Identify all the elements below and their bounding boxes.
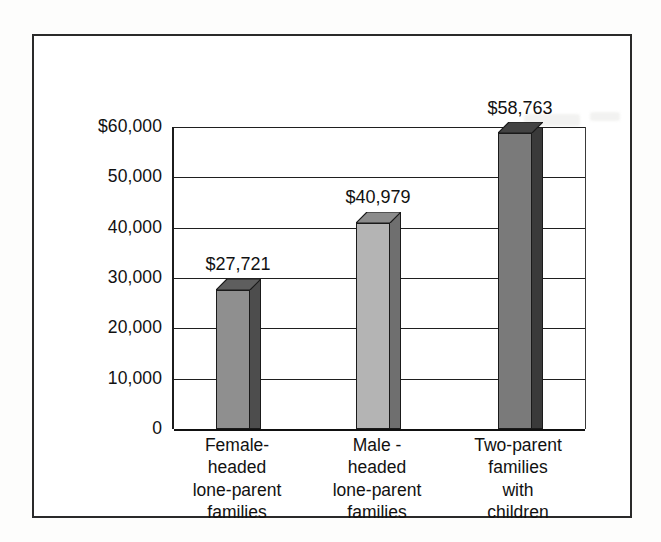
x-label-two-parent: Two-parent families with children [444, 434, 592, 524]
bar-front-face [356, 223, 390, 429]
bar-top-face [356, 212, 401, 223]
bar-female-headed[interactable] [216, 127, 261, 429]
x-label-line: Two-parent [444, 434, 592, 456]
y-tick-label: $60,000 [48, 118, 168, 136]
bar-top-parallelogram-icon [216, 279, 261, 290]
y-tick-label: 20,000 [48, 320, 168, 338]
x-label-line: families [444, 456, 592, 478]
figure-frame: $60,000 50,000 40,000 30,000 20,000 10,0… [32, 34, 632, 518]
plot-area: $27,721 $40,979 [172, 127, 586, 429]
bar-side-face [390, 212, 401, 429]
x-axis-category-labels: Female- headed lone-parent families Male… [172, 434, 586, 542]
bar-front-face [216, 290, 250, 430]
scanned-page: $60,000 50,000 40,000 30,000 20,000 10,0… [0, 0, 661, 542]
x-label-line: with [444, 479, 592, 501]
y-tick-label: 10,000 [48, 370, 168, 388]
bar-male-headed[interactable] [356, 127, 401, 429]
x-label-line: families [303, 501, 451, 523]
y-tick-label: 50,000 [48, 169, 168, 187]
y-axis-tick-labels: $60,000 50,000 40,000 30,000 20,000 10,0… [42, 127, 168, 429]
bar-two-parent[interactable] [498, 127, 543, 429]
scan-smudge [590, 112, 620, 121]
x-label-line: headed [303, 456, 451, 478]
bar-side-face [532, 127, 543, 429]
x-label-female-headed: Female- headed lone-parent families [163, 434, 311, 524]
x-label-line: families [163, 501, 311, 523]
y-tick-label: 30,000 [48, 269, 168, 287]
bar-front-face [498, 133, 532, 429]
bar-top-face [498, 122, 543, 133]
bar-side-face [250, 279, 261, 430]
x-label-male-headed: Male - headed lone-parent families [303, 434, 451, 524]
bar-top-face [216, 279, 261, 290]
y-tick-label: 0 [48, 420, 168, 438]
bar-value-label-male-headed: $40,979 [318, 188, 438, 206]
x-label-line: lone-parent [163, 479, 311, 501]
y-tick-label: 40,000 [48, 219, 168, 237]
bar-value-label-two-parent: $58,763 [460, 99, 580, 117]
x-axis-baseline [174, 429, 585, 431]
bar-top-parallelogram-icon [356, 212, 401, 223]
x-label-line: Female- [163, 434, 311, 456]
x-label-line: lone-parent [303, 479, 451, 501]
bar-top-parallelogram-icon [498, 122, 543, 133]
x-label-line: Male - [303, 434, 451, 456]
x-label-line: children [444, 501, 592, 523]
x-label-line: headed [163, 456, 311, 478]
bar-value-label-female-headed: $27,721 [178, 255, 298, 273]
